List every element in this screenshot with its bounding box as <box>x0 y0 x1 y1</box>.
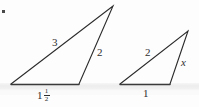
small-triangle-unknown-side-label: x <box>181 57 186 68</box>
large-triangle-base-label: 1 1 2 <box>37 88 50 104</box>
base-label-fraction: 1 2 <box>44 88 50 104</box>
large-triangle-sides <box>11 6 113 84</box>
large-triangle-hypotenuse-label: 3 <box>52 37 58 48</box>
fraction-denominator: 2 <box>44 96 50 103</box>
similar-triangles-figure: 3 2 1 1 2 2 x 1 <box>0 0 199 107</box>
small-triangle-shape <box>120 31 188 85</box>
large-triangle-right-side-label: 2 <box>97 47 103 58</box>
fraction-numerator: 1 <box>44 88 50 95</box>
small-triangle-sides <box>120 31 188 84</box>
small-triangle-hypotenuse-label: 2 <box>145 47 151 58</box>
small-triangle-base-label: 1 <box>143 88 149 99</box>
base-label-whole-part: 1 <box>37 90 43 101</box>
